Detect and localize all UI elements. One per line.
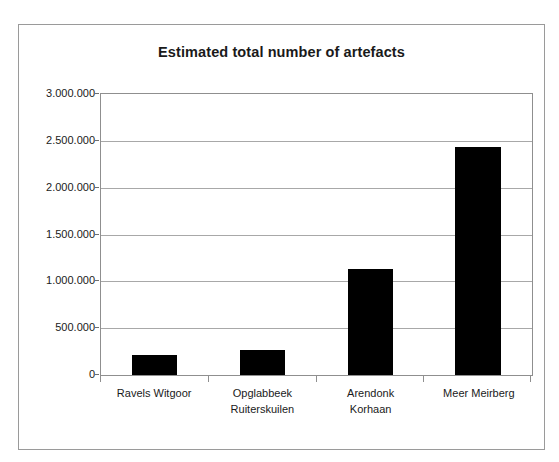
y-axis-tick-label: 3.000.000 xyxy=(21,87,95,99)
y-axis-tick-mark xyxy=(95,280,99,281)
y-axis-tick-mark xyxy=(95,187,99,188)
x-axis-tick-mark xyxy=(530,376,531,382)
y-axis-tick-mark xyxy=(95,374,99,375)
x-axis-tick-mark xyxy=(100,376,101,382)
bar xyxy=(348,269,393,375)
bar xyxy=(132,355,177,375)
chart-frame: Estimated total number of artefacts 0500… xyxy=(18,24,545,450)
bar xyxy=(240,350,285,375)
x-axis-category-line: Opglabbeek xyxy=(233,387,292,399)
x-axis-category-line: Ruiterskuilen xyxy=(208,401,316,417)
x-axis-category-line: Korhaan xyxy=(317,401,425,417)
x-axis-category-label: Meer Meirberg xyxy=(425,385,533,417)
y-axis-tick-label: 0 xyxy=(21,368,95,380)
x-axis-category-label: Ravels Witgoor xyxy=(100,385,208,417)
chart-title: Estimated total number of artefacts xyxy=(19,44,544,60)
y-axis-tick-mark xyxy=(95,327,99,328)
x-axis-tick-mark xyxy=(423,376,424,382)
y-axis-tick-label: 1.500.000 xyxy=(21,228,95,240)
y-axis-tick-label: 2.000.000 xyxy=(21,181,95,193)
y-axis-tick-mark xyxy=(95,140,99,141)
y-axis-tick-label: 1.000.000 xyxy=(21,274,95,286)
bar xyxy=(455,147,500,375)
x-axis-labels: Ravels WitgoorOpglabbeekRuiterskuilenAre… xyxy=(100,385,533,417)
plot-area xyxy=(100,93,533,376)
y-axis-tick-label: 2.500.000 xyxy=(21,134,95,146)
y-axis: 0500.0001.000.0001.500.0002.000.0002.500… xyxy=(19,93,95,376)
y-axis-tick-mark xyxy=(95,93,99,94)
x-axis-tick-mark xyxy=(208,376,209,382)
x-axis-category-line: Ravels Witgoor xyxy=(117,387,192,399)
y-axis-tick-label: 500.000 xyxy=(21,321,95,333)
x-axis-category-line: Arendonk xyxy=(347,387,394,399)
x-axis-category-label: OpglabbeekRuiterskuilen xyxy=(208,385,316,417)
x-axis-ticks xyxy=(100,376,533,383)
x-axis-tick-mark xyxy=(316,376,317,382)
x-axis-category-line: Meer Meirberg xyxy=(443,387,515,399)
y-axis-tick-mark xyxy=(95,234,99,235)
x-axis-category-label: ArendonkKorhaan xyxy=(317,385,425,417)
gridline xyxy=(101,141,532,142)
